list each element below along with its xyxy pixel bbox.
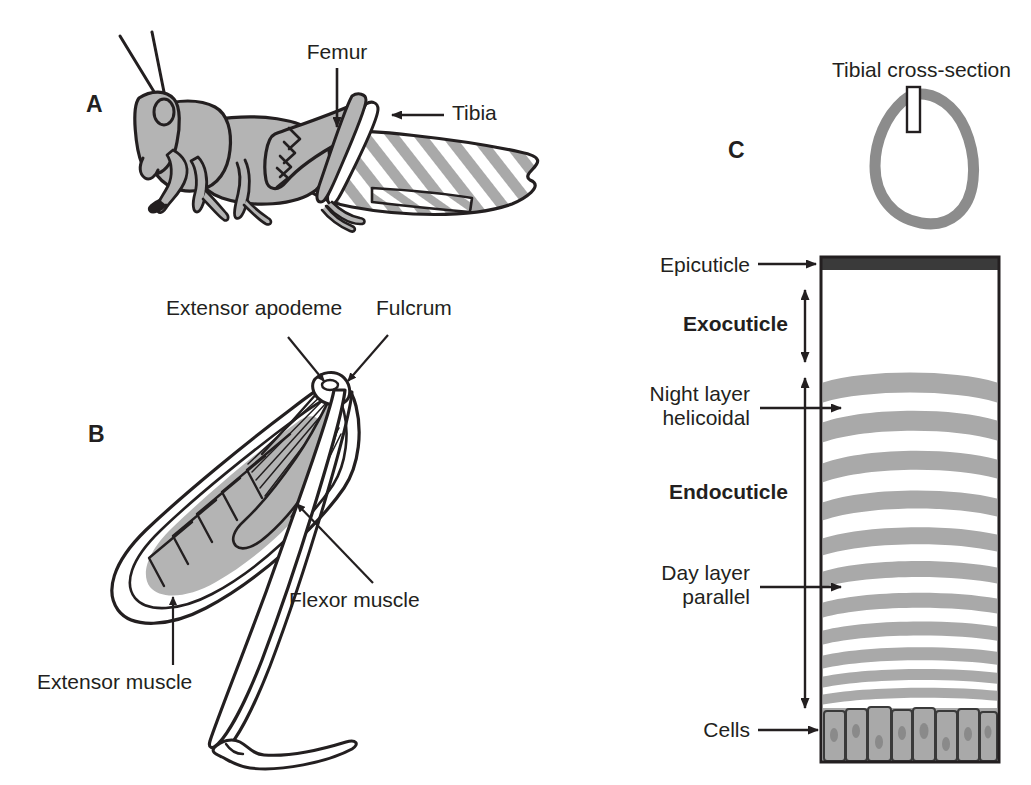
cross-section-sample-marker xyxy=(907,87,920,132)
label-exocuticle: Exocuticle xyxy=(586,312,788,336)
leader-extensor-apodeme xyxy=(288,337,324,381)
label-extensor-muscle: Extensor muscle xyxy=(37,670,192,694)
label-cells: Cells xyxy=(586,718,750,742)
label-femur: Femur xyxy=(262,40,412,64)
tarsus xyxy=(213,740,356,769)
panel-letter-c: C xyxy=(728,138,745,164)
panel-b-leg-drawing xyxy=(112,372,359,768)
figure-root: A Femur Tibia B Extensor apodeme Fulcrum… xyxy=(0,0,1031,785)
label-day-layer-parallel-line2: parallel xyxy=(586,585,750,609)
label-fulcrum: Fulcrum xyxy=(376,296,452,320)
leader-flexor-muscle xyxy=(297,504,373,583)
label-flexor-muscle: Flexor muscle xyxy=(289,588,420,612)
label-epicuticle: Epicuticle xyxy=(586,253,750,277)
eye xyxy=(154,99,174,125)
label-tibial-cross-section: Tibial cross-section xyxy=(832,58,1011,82)
leader-fulcrum xyxy=(348,335,388,381)
cells-row xyxy=(823,707,997,762)
label-day-layer-line1: Day layer xyxy=(586,561,750,585)
tibial-cross-section-shape xyxy=(875,87,974,224)
epicuticle-band xyxy=(821,257,999,270)
figure-artwork xyxy=(0,0,1031,785)
cuticle-block xyxy=(821,257,999,762)
label-night-layer-line2: helicoidal xyxy=(586,406,750,430)
label-night-layer-line1: Night layer xyxy=(586,382,750,406)
label-tibia: Tibia xyxy=(452,101,497,125)
label-endocuticle: Endocuticle xyxy=(586,480,788,504)
label-extensor-apodeme: Extensor apodeme xyxy=(166,296,342,320)
panel-letter-b: B xyxy=(88,422,105,448)
panel-letter-a: A xyxy=(86,92,103,118)
